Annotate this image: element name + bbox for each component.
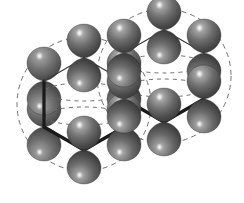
p-orbital-highlight-upper-L1 xyxy=(76,29,83,37)
p-orbital-highlight-lower-L1 xyxy=(76,79,82,86)
p-orbital-highlight-upper-R1 xyxy=(156,1,163,9)
p-orbital-highlight-lower-R1 xyxy=(156,51,162,58)
p-orbital-highlight-lower-R3 xyxy=(196,120,202,127)
p-orbital-highlight-lower-L3 xyxy=(116,148,122,155)
p-orbital-highlight-upper-R3 xyxy=(196,70,203,78)
p-orbital-highlight-lower-L6 xyxy=(36,102,42,109)
p-orbital-highlight-upper-L4 xyxy=(76,121,83,129)
p-orbital-highlight-lower-R4 xyxy=(156,143,162,150)
p-orbital-highlight-lower-L5 xyxy=(36,148,42,155)
orbital-diagram-canvas xyxy=(0,0,244,203)
p-orbital-highlight-upper-R4 xyxy=(156,93,163,101)
p-orbital-highlight-lower-L4 xyxy=(76,171,82,178)
p-orbital-highlight-lower-R6 xyxy=(116,74,122,81)
p-orbital-highlight-lower-R5 xyxy=(116,120,122,127)
p-orbital-highlight-upper-R6 xyxy=(116,24,123,32)
orbital-diagram-figure: Fused aromatic ring system with p-orbita… xyxy=(0,0,244,203)
p-orbital-highlight-upper-R2 xyxy=(196,24,203,32)
p-orbital-highlight-upper-L6 xyxy=(36,52,43,60)
